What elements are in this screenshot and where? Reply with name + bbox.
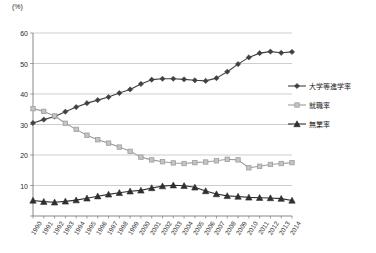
y-axis-tick-label: 40 — [6, 91, 28, 98]
legend-marker-1 — [288, 80, 306, 92]
y-axis-tick-label: 30 — [6, 121, 28, 128]
y-axis-tick-label: 10 — [6, 182, 28, 189]
legend-marker-3 — [288, 118, 306, 130]
y-axis-tick-label: 50 — [6, 60, 28, 67]
legend-label-1: 大学等進学率 — [309, 81, 351, 91]
y-axis-tick-label: 60 — [6, 30, 28, 37]
legend-label-2: 就職率 — [309, 100, 330, 110]
line-chart: (%) 102030405060 19901991199219931994199… — [0, 0, 376, 253]
legend-marker-2 — [288, 99, 306, 111]
legend-label-3: 無業率 — [309, 119, 330, 129]
y-axis-tick-label: 20 — [6, 152, 28, 159]
